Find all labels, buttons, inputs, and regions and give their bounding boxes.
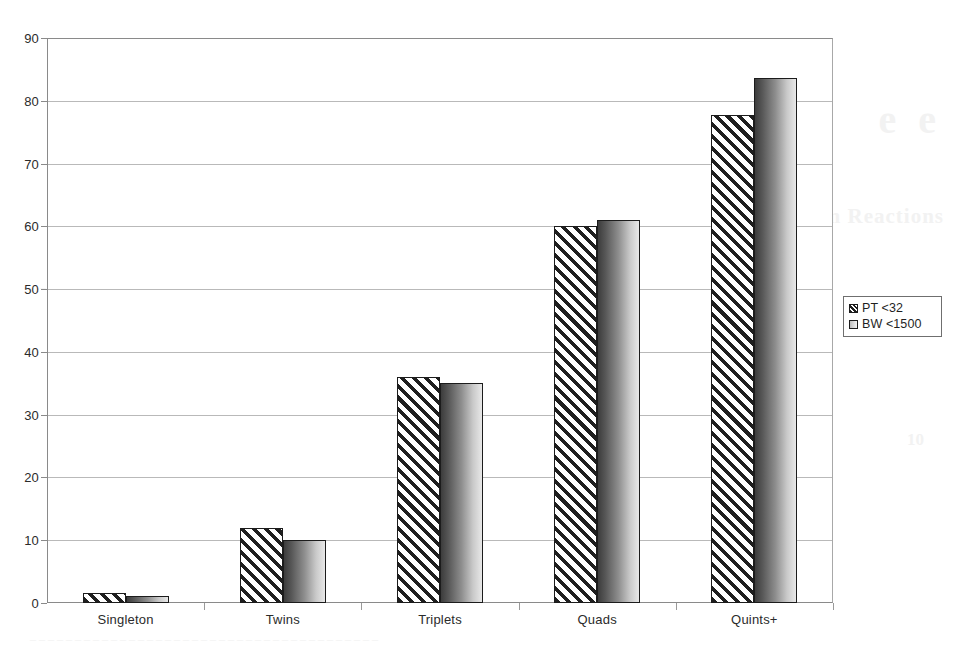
- y-axis-tick-label: 0: [0, 596, 39, 611]
- y-axis-tick-label: 20: [0, 470, 39, 485]
- bar-quints-bw: [754, 78, 797, 603]
- y-axis-tick-label: 70: [0, 156, 39, 171]
- y-axis-tick-label: 30: [0, 407, 39, 422]
- x-axis-category-label: Twins: [266, 612, 300, 627]
- y-axis-tick-mark: [41, 226, 47, 227]
- x-axis-category-label: Singleton: [98, 612, 154, 627]
- legend-item: PT <32: [849, 300, 937, 316]
- y-axis-tick-mark: [41, 540, 47, 541]
- chart-legend: PT <32BW <1500: [843, 296, 942, 337]
- x-axis-tick-mark: [204, 603, 205, 610]
- y-axis-tick-mark: [41, 289, 47, 290]
- y-axis-tick-label: 80: [0, 93, 39, 108]
- y-axis-tick-label: 50: [0, 282, 39, 297]
- legend-item: BW <1500: [849, 316, 937, 332]
- y-axis-tick-mark: [41, 477, 47, 478]
- bar-twins-bw: [283, 540, 326, 603]
- bar-singleton-pt: [83, 593, 126, 603]
- x-axis-tick-mark: [676, 603, 677, 610]
- bar-twins-pt: [240, 528, 283, 603]
- y-axis-tick-label: 60: [0, 219, 39, 234]
- gridline: [48, 101, 832, 102]
- bar-quads-pt: [554, 226, 597, 603]
- y-axis-tick-label: 90: [0, 31, 39, 46]
- bar-triplets-pt: [397, 377, 440, 603]
- y-axis-tick-mark: [41, 101, 47, 102]
- y-axis-tick-label: 40: [0, 344, 39, 359]
- y-axis-tick-mark: [41, 352, 47, 353]
- y-axis-tick-mark: [41, 38, 47, 39]
- x-axis-tick-mark: [833, 603, 834, 610]
- legend-label: PT <32: [862, 301, 903, 315]
- y-axis-tick-mark: [41, 415, 47, 416]
- bar-chart: 0102030405060708090SingletonTwinsTriplet…: [0, 0, 960, 652]
- legend-label: BW <1500: [862, 317, 922, 331]
- y-axis-tick-mark: [41, 164, 47, 165]
- bar-triplets-bw: [440, 383, 483, 603]
- y-axis-tick-mark: [41, 603, 47, 604]
- legend-swatch-hatch-icon: [849, 304, 858, 313]
- x-axis-category-label: Quads: [578, 612, 617, 627]
- x-axis-category-label: Quints+: [731, 612, 778, 627]
- x-axis-category-label: Triplets: [418, 612, 462, 627]
- x-axis-tick-mark: [519, 603, 520, 610]
- y-axis-tick-label: 10: [0, 533, 39, 548]
- bar-quints-pt: [711, 115, 754, 603]
- legend-swatch-gradient-icon: [849, 320, 858, 329]
- bar-singleton-bw: [126, 596, 169, 603]
- x-axis-tick-mark: [361, 603, 362, 610]
- bar-quads-bw: [597, 220, 640, 603]
